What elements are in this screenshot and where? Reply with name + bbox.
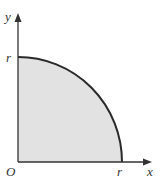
y-axis-label: y <box>3 9 11 24</box>
x-axis-label: x <box>146 164 153 179</box>
quarter-circle-diagram: y r O r x <box>0 0 161 183</box>
origin-label: O <box>6 164 16 179</box>
shaded-quarter-disk <box>18 57 122 162</box>
x-intercept-label: r <box>117 164 123 179</box>
y-intercept-label: r <box>6 50 12 65</box>
y-axis-arrow-icon <box>15 13 22 22</box>
